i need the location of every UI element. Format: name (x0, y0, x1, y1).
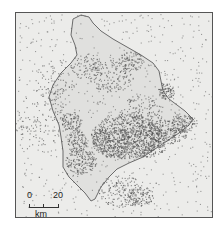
scale-end-label: 20 (53, 190, 63, 200)
scale-unit-label: km (35, 209, 47, 218)
island-map (16, 13, 213, 218)
scale-bar (29, 204, 59, 208)
map-frame: 0 20 km (15, 12, 213, 218)
scale-start-label: 0 (27, 190, 32, 200)
